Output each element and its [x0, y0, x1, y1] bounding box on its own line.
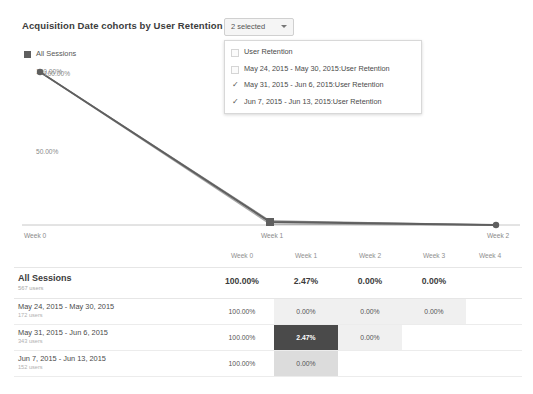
table-summary-row: All Sessions 567 users 100.00% 2.47% 0.0… [14, 267, 522, 299]
panel-header: Acquisition Date cohorts by User Retenti… [22, 18, 512, 40]
summary-cell-week2: 0.00% [338, 276, 402, 286]
check-icon: ✓ [232, 94, 241, 111]
metric-select-label: 2 selected [231, 22, 265, 31]
cohort-table: Week 0 Week 1 Week 2 Week 3 Week 4 All S… [14, 249, 522, 377]
summary-row-label: All Sessions [18, 273, 72, 283]
check-icon: ✓ [232, 77, 241, 94]
dropdown-item-cohort-may31[interactable]: ✓ May 31, 2015 - Jun 6, 2015:User Retent… [225, 77, 421, 94]
data-point-week1 [266, 218, 274, 226]
dropdown-item-cohort-may24[interactable]: May 24, 2015 - May 30, 2015:User Retenti… [225, 61, 421, 78]
data-point-week2 [493, 222, 499, 228]
cell-week4 [458, 299, 522, 324]
x-axis-tick-label: Week 0 [24, 232, 46, 239]
dropdown-item-label: May 24, 2015 - May 30, 2015:User Retenti… [244, 64, 390, 73]
dropdown-item-label: May 31, 2015 - Jun 6, 2015:User Retentio… [244, 80, 384, 89]
cell-week1: 0.00% [274, 299, 338, 324]
row-label: Jun 7, 2015 - Jun 13, 2015 [18, 354, 106, 363]
checkbox-icon[interactable] [231, 66, 239, 74]
table-row[interactable]: May 24, 2015 - May 30, 2015 172 users 10… [14, 299, 522, 325]
row-label: May 24, 2015 - May 30, 2015 [18, 302, 114, 311]
dropdown-item-user-retention[interactable]: User Retention [225, 44, 421, 61]
cell-week0: 100.00% [210, 325, 274, 350]
data-point-week0 [37, 69, 43, 75]
cohort-analysis-panel: Acquisition Date cohorts by User Retenti… [0, 0, 533, 394]
cell-week0: 100.00% [210, 299, 274, 324]
cell-week2 [338, 351, 402, 376]
cell-week1: 0.00% [274, 351, 338, 376]
column-header-week2: Week 2 [338, 252, 402, 259]
row-users: 343 users [18, 338, 43, 344]
data-point-label-week0: 100.00% [44, 70, 70, 77]
summary-cell-week0: 100.00% [210, 276, 274, 286]
table-row[interactable]: May 31, 2015 - Jun 6, 2015 343 users 100… [14, 325, 522, 351]
cell-week3 [402, 351, 466, 376]
summary-row-users: 567 users [18, 285, 43, 291]
column-header-week0: Week 0 [210, 252, 274, 259]
table-header-row: Week 0 Week 1 Week 2 Week 3 Week 4 [14, 249, 522, 267]
cell-week4 [458, 351, 522, 376]
row-users: 152 users [18, 364, 43, 370]
cell-week3 [402, 325, 466, 350]
cell-week1: 2.47% [274, 325, 338, 350]
dropdown-item-label: User Retention [244, 47, 293, 56]
metric-select-button[interactable]: 2 selected [224, 18, 294, 36]
column-header-week1: Week 1 [274, 252, 338, 259]
checkbox-icon[interactable] [231, 49, 239, 57]
summary-cell-week3: 0.00% [402, 276, 466, 286]
column-header-week4: Week 4 [458, 252, 522, 259]
table-row[interactable]: Jun 7, 2015 - Jun 13, 2015 152 users 100… [14, 351, 522, 377]
cell-week3: 0.00% [402, 299, 466, 324]
x-axis-tick-label: Week 2 [487, 232, 509, 239]
x-axis-tick-label: Week 1 [261, 232, 283, 239]
row-users: 172 users [18, 312, 43, 318]
cell-week4 [458, 325, 522, 350]
dropdown-item-cohort-jun7[interactable]: ✓ Jun 7, 2015 - Jun 13, 2015:User Retent… [225, 94, 421, 111]
summary-cell-week1: 2.47% [274, 276, 338, 286]
chevron-down-icon [281, 25, 287, 28]
dropdown-item-label: Jun 7, 2015 - Jun 13, 2015:User Retentio… [244, 97, 382, 106]
cell-week0: 100.00% [210, 351, 274, 376]
cell-week2: 0.00% [338, 325, 402, 350]
page-title: Acquisition Date cohorts by User Retenti… [22, 20, 223, 31]
row-label: May 31, 2015 - Jun 6, 2015 [18, 328, 108, 337]
metric-dropdown-menu[interactable]: User Retention May 24, 2015 - May 30, 20… [224, 40, 422, 114]
column-header-week3: Week 3 [402, 252, 466, 259]
cell-week2: 0.00% [338, 299, 402, 324]
